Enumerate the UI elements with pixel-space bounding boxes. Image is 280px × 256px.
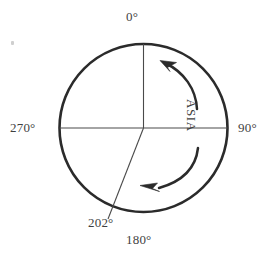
label-region-asia: ASIA (184, 99, 198, 151)
label-west-270-degrees: 270° (10, 121, 36, 134)
bearing-circle-diagram: 0° 90° 270° 180° 202° ASIA (0, 0, 280, 256)
scan-artifact-speck (11, 41, 14, 45)
label-east-90-degrees: 90° (238, 121, 257, 134)
label-bearing-202-degrees: 202° (88, 216, 114, 229)
bearing-radius-line (108, 128, 144, 219)
label-north-0-degrees: 0° (126, 10, 138, 23)
label-south-180-degrees: 180° (126, 233, 152, 246)
lower-rotation-arrow (140, 148, 198, 192)
